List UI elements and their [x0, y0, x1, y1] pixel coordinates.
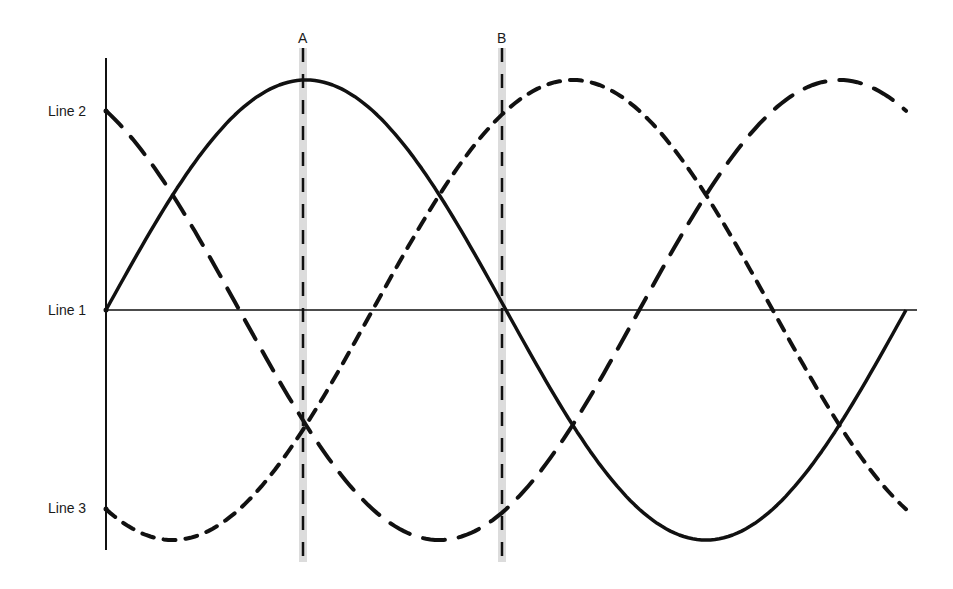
line-1-label: Line 1 — [48, 302, 86, 318]
marker-a-band — [299, 48, 307, 562]
line-3-label: Line 3 — [48, 500, 86, 516]
marker-b-label: B — [497, 30, 506, 46]
marker-a-label: A — [298, 30, 307, 46]
line-2-label: Line 2 — [48, 103, 86, 119]
line-1-origin-dot — [104, 308, 109, 313]
three-phase-diagram — [0, 0, 953, 589]
line-3-origin-dot — [104, 507, 109, 512]
line-2-origin-dot — [104, 109, 109, 114]
